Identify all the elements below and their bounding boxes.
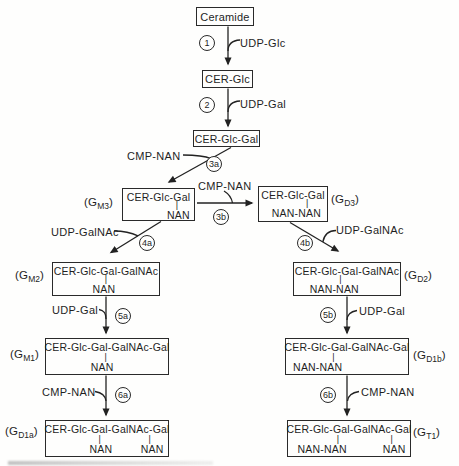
step-circle-1: 1 (199, 35, 215, 51)
node-gm1: CER-Glc-Gal-GalNAc-Gal | NAN (45, 338, 169, 375)
step-circle-5a: 5a (115, 308, 131, 324)
label-gd1b-pre: (G (413, 349, 426, 361)
label-gm3-post: ) (109, 196, 113, 208)
node-gd1a-bond-1: | (98, 435, 101, 443)
reagent-cmp-nan-3b: CMP-NAN (198, 180, 251, 192)
node-gd3-bond: | (306, 199, 309, 207)
node-gd1a-nan-1: NAN (90, 443, 113, 455)
node-gd2-chain: CER-Glc-Gal-GalNAc (295, 265, 400, 277)
step-circle-4b: 4b (297, 235, 313, 251)
label-gd2-sub: D2 (417, 274, 428, 284)
node-gm3: CER-Glc-Gal | NAN (122, 188, 195, 221)
label-gd1b-sub: D1b (426, 354, 442, 364)
reagent-cmp-nan-3a: CMP-NAN (127, 150, 180, 162)
curve-udpgalnac-4b (323, 231, 336, 243)
label-gd3: (GD3) (331, 193, 359, 208)
node-gd3-chain: CER-Glc-Gal (261, 189, 324, 201)
node-gd2: CER-Glc-Gal-GalNAc | NAN-NAN (293, 262, 401, 296)
node-gd1a-bond-2: | (148, 435, 151, 443)
label-gd3-post: ) (355, 193, 359, 205)
node-gm1-bond: | (104, 353, 107, 361)
node-gm1-nan: NAN (91, 361, 114, 373)
node-ceramide-text: Ceramide (200, 11, 249, 23)
label-gt1-post: ) (436, 426, 440, 438)
label-gd1b-post: ) (442, 349, 446, 361)
label-gm2-pre: (G (15, 269, 28, 281)
label-gd3-pre: (G (331, 193, 344, 205)
node-cer-glc-gal: CER-Glc-Gal (193, 130, 260, 147)
node-gm2: CER-Glc-Gal-GalNAc | NAN (52, 262, 160, 296)
reagent-udp-gal-5b: UDP-Gal (359, 305, 405, 317)
node-gm3-nan: NAN (167, 209, 190, 221)
node-gt1-bond-1: | (337, 435, 340, 443)
node-gt1: CER-Glc-Gal-GalNAc-Gal | | NAN-NAN NAN (287, 420, 411, 457)
reagent-udp-galnac-4a: UDP-GalNAc (51, 226, 119, 238)
label-gd2: (GD2) (404, 269, 432, 284)
pathway-diagram: Ceramide CER-Glc CER-Glc-Gal CER-Glc-Gal… (0, 0, 459, 466)
label-gt1-pre: (G (413, 426, 426, 438)
node-gd3-nan: NAN-NAN (272, 207, 321, 219)
label-gt1-sub: T1 (426, 431, 436, 441)
curve-cmpnan-6b (348, 392, 360, 402)
node-gm3-chain: CER-Glc-Gal (127, 191, 190, 203)
node-gd2-nan: NAN-NAN (310, 283, 359, 295)
label-gt1: (GT1) (413, 426, 440, 441)
label-gm3-sub: M3 (97, 201, 109, 211)
node-ceramide: Ceramide (196, 7, 254, 26)
node-gd3: CER-Glc-Gal | NAN-NAN (258, 186, 328, 222)
label-gd1a-post: ) (34, 425, 38, 437)
node-gm2-nan: NAN (92, 283, 115, 295)
curve-udpgal-2 (228, 101, 240, 112)
node-gm2-bond: | (105, 275, 108, 283)
cropped-caption-remnant (8, 461, 213, 465)
curve-cmpnan-6a (95, 392, 106, 402)
node-gd1b-nan: NAN-NAN (293, 361, 342, 373)
node-cer-glc-text: CER-Glc (205, 73, 250, 85)
node-gd1b-bond: | (332, 353, 335, 361)
label-gd1a: (GD1a) (5, 425, 38, 440)
reagent-cmp-nan-6b: CMP-NAN (361, 386, 414, 398)
label-gm2-post: ) (40, 269, 44, 281)
node-gd2-bond: | (339, 275, 342, 283)
node-cer-glc: CER-Glc (202, 70, 253, 88)
label-gm1-post: ) (35, 348, 39, 360)
curve-cmpnan-3b (224, 191, 233, 203)
label-gd1b: (GD1b) (413, 349, 446, 364)
label-gd2-pre: (G (404, 269, 417, 281)
step-circle-6b: 6b (320, 387, 336, 403)
curve-udpglc-1 (228, 40, 240, 51)
step-circle-3a: 3a (206, 156, 222, 172)
label-gm1-sub: M1 (23, 353, 35, 363)
reagent-udp-gal-5a: UDP-Gal (52, 304, 98, 316)
label-gd2-post: ) (428, 269, 432, 281)
node-gt1-nan-2: NAN (383, 443, 406, 455)
label-gd3-sub: D3 (344, 198, 355, 208)
step-circle-3b: 3b (213, 209, 229, 225)
step-circle-5b: 5b (320, 307, 336, 323)
step-circle-2: 2 (199, 97, 215, 113)
node-gm3-bond: | (176, 201, 179, 209)
curve-udpgal-5b (347, 311, 357, 321)
node-cer-glc-gal-text: CER-Glc-Gal (195, 133, 258, 145)
node-gd1b: CER-Glc-Gal-GalNAc-Gal | NAN-NAN (285, 338, 409, 375)
label-gm3-pre: (G (84, 196, 97, 208)
label-gd1a-pre: (G (5, 425, 18, 437)
node-gt1-nan-1: NAN-NAN (298, 443, 347, 455)
node-gd1b-chain: CER-Glc-Gal-GalNAc-Gal (284, 341, 409, 353)
curve-udpgal-5a (99, 310, 106, 320)
reagent-cmp-nan-6a: CMP-NAN (42, 386, 95, 398)
node-gt1-bond-2: | (390, 435, 393, 443)
reagent-udp-glc-1: UDP-Glc (240, 37, 286, 49)
node-gd1a-nan-2: NAN (141, 443, 164, 455)
reagent-udp-gal-2: UDP-Gal (240, 98, 286, 110)
step-circle-6a: 6a (115, 387, 131, 403)
step-circle-4a: 4a (139, 235, 155, 251)
label-gm3: (GM3) (84, 196, 113, 211)
label-gm2: (GM2) (15, 269, 44, 284)
node-gd1a: CER-Glc-Gal-GalNAc-Gal | | NAN NAN (45, 420, 169, 457)
label-gm1-pre: (G (10, 348, 23, 360)
label-gm1: (GM1) (10, 348, 39, 363)
label-gd1a-sub: D1a (18, 430, 34, 440)
reagent-udp-galnac-4b: UDP-GalNAc (336, 224, 404, 236)
label-gm2-sub: M2 (28, 274, 40, 284)
